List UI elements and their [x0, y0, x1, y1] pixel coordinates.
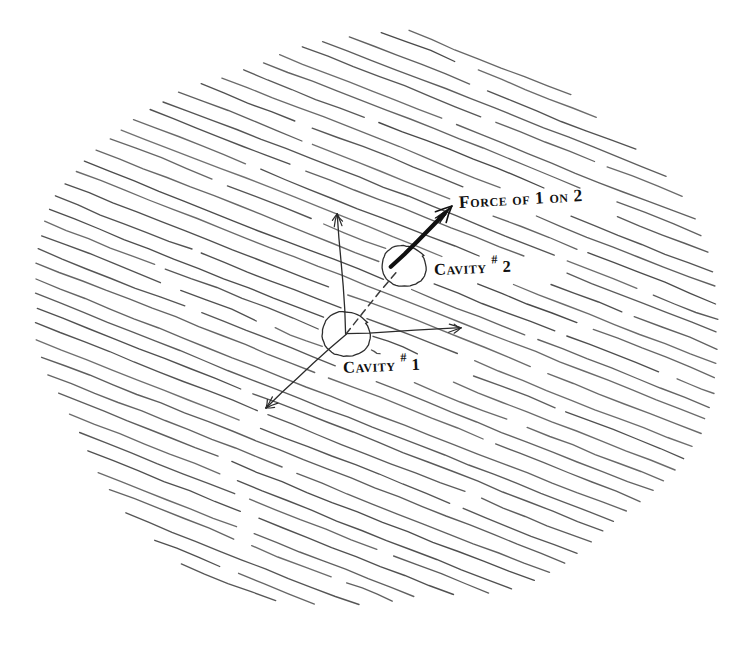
hatch-stroke [261, 428, 450, 503]
hatch-stroke [264, 63, 581, 188]
hatch-stroke [36, 279, 626, 511]
hatch-stroke [150, 110, 290, 165]
hatch-stroke [268, 415, 465, 492]
hatch-stroke [88, 451, 240, 512]
hatch-stroke [297, 473, 550, 572]
hatch-stroke [367, 319, 458, 354]
cavity-outlines [322, 245, 426, 356]
hatch-stroke [155, 540, 220, 566]
hatch-stroke [302, 47, 480, 117]
hatch-stroke [227, 186, 311, 219]
hatch-stroke [76, 172, 704, 419]
hatch-stroke [181, 290, 257, 321]
hatch-stroke [567, 336, 659, 372]
hatch-stroke [381, 33, 455, 62]
hatch-stroke [677, 379, 714, 394]
hatch-stroke [571, 216, 713, 272]
hatch-stroke [493, 216, 577, 249]
medium-hatching [36, 30, 718, 604]
hatch-stroke [65, 184, 329, 287]
hatch-stroke [379, 123, 544, 189]
hatch-stroke [527, 427, 663, 480]
hatch-stroke [80, 433, 235, 494]
hatch-stroke [84, 161, 383, 279]
hatch-stroke [548, 374, 701, 434]
hatch-stroke [567, 261, 637, 289]
hatch-stroke [201, 253, 341, 308]
cavity1-label-initial: C [343, 357, 356, 377]
hatch-stroke [55, 196, 192, 249]
hatch-stroke [312, 128, 463, 187]
hatch-stroke [252, 546, 332, 577]
hatch-stroke [48, 375, 282, 467]
hatch-stroke [202, 313, 335, 366]
hatch-stroke [250, 499, 377, 549]
hatch-stroke [607, 167, 682, 196]
hatch-stroke [239, 573, 315, 604]
hatch-stroke [373, 336, 417, 354]
hatch-stroke [566, 412, 684, 459]
force-arrow-shaft [391, 214, 445, 267]
hatch-stroke [323, 42, 666, 177]
hatch-stroke [536, 216, 715, 286]
hatch-stroke [409, 30, 571, 94]
hatch-stroke [414, 383, 506, 420]
cavity2-number-group: #2 [486, 259, 512, 277]
hatch-stroke [165, 269, 318, 329]
hatch-stroke [259, 518, 454, 594]
hatch-stroke [232, 461, 535, 580]
hatch-stroke [38, 249, 185, 306]
hatch-stroke [280, 55, 442, 119]
hatch-stroke [126, 513, 359, 605]
cavity2-label-word: avity [446, 258, 487, 279]
hatch-stroke [324, 224, 386, 248]
diagram-canvas: Force of 1 on 2 Cavity#2 Cavity#1 [0, 0, 741, 650]
hatch-stroke [617, 217, 708, 253]
cavity1-label: Cavity#1 [343, 356, 421, 376]
hatch-stroke [222, 78, 500, 188]
cavity2-label: Cavity#2 [434, 259, 512, 279]
hatch-stroke [121, 130, 442, 256]
hatch-stroke [567, 273, 716, 332]
hatch-stroke [201, 84, 295, 121]
hatch-stroke [42, 357, 565, 563]
hatch-stroke [617, 202, 701, 236]
hatch-stroke [588, 253, 716, 304]
hatch-stroke [514, 285, 716, 364]
hatch-stroke [70, 414, 220, 474]
cavity2-circle [382, 245, 426, 286]
cavity1-label-word: avity [355, 356, 396, 377]
cavity1-hash-icon: # [400, 351, 407, 363]
cavity1-number-group: #1 [395, 356, 421, 374]
hatch-stroke [312, 144, 449, 199]
hand-drawn-cavity-diagram [0, 0, 741, 650]
cavity2-label-initial: C [434, 259, 447, 279]
hatch-stroke [496, 444, 640, 502]
hatch-stroke [372, 350, 381, 354]
hatch-stroke [254, 534, 414, 597]
hatch-stroke [474, 376, 556, 408]
hatch-stroke [36, 293, 614, 521]
hatch-stroke [653, 295, 718, 319]
hatch-stroke [253, 394, 603, 531]
hatch-stroke [634, 317, 717, 350]
hatch-stroke [36, 340, 239, 420]
hatch-stroke [163, 102, 554, 255]
arrowhead-barb [266, 407, 275, 408]
hatch-stroke [488, 91, 636, 149]
hatch-stroke [551, 285, 622, 312]
hatch-stroke [328, 378, 483, 439]
cavity2-hash-icon: # [491, 254, 498, 266]
hatch-stroke [98, 473, 236, 527]
hatch-stroke [237, 481, 511, 589]
